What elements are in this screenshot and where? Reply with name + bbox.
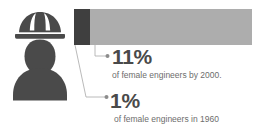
callout-1960-value: 1% bbox=[110, 90, 219, 112]
bar-segment-1960 bbox=[74, 9, 90, 45]
leader-dot-2000 bbox=[106, 54, 110, 58]
stacked-bar-chart bbox=[74, 9, 252, 45]
infographic-root: 11% of female engineers by 2000. 1% of f… bbox=[0, 0, 257, 128]
callout-2000-caption: of female engineers by 2000. bbox=[112, 70, 222, 81]
bar-segment-2000 bbox=[90, 9, 252, 45]
female-engineer-hardhat-icon bbox=[8, 6, 72, 102]
callout-2000: 11% of female engineers by 2000. bbox=[112, 46, 222, 81]
callout-1960: 1% of female engineers in 1960 bbox=[110, 90, 219, 125]
callout-1960-caption: of female engineers in 1960 bbox=[114, 114, 219, 125]
leader-dot-1960 bbox=[105, 95, 109, 99]
callout-2000-value: 11% bbox=[112, 46, 222, 68]
